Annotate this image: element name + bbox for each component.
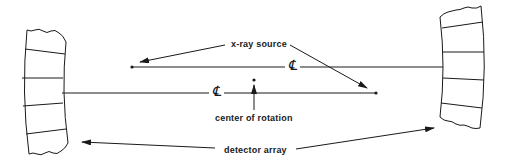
detector-array-arrow-right <box>296 128 434 149</box>
diagram-canvas: ℄ ℄ x-ray source center of rotation dete… <box>0 0 507 167</box>
left-detector-array <box>22 29 68 155</box>
centerline-symbol-lower: ℄ <box>209 85 224 99</box>
detector-array-label: detector array <box>224 145 287 155</box>
xray-source-point-lower <box>374 91 377 94</box>
diagram-drawing <box>0 0 507 167</box>
xray-source-arrow-left <box>140 45 225 62</box>
detector-array-arrow-left <box>82 142 215 148</box>
right-detector-array <box>440 6 484 129</box>
centerline-symbol-upper: ℄ <box>285 59 300 73</box>
leader-arrows <box>82 45 434 149</box>
xray-source-label: x-ray source <box>231 39 287 49</box>
xray-source-point-upper <box>130 65 133 68</box>
center-of-rotation-point <box>252 78 255 81</box>
center-of-rotation-label: center of rotation <box>215 113 293 123</box>
